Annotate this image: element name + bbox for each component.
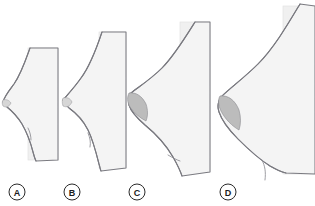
label-text-c: C (134, 188, 141, 198)
label-text-b: B (69, 188, 76, 198)
figure-group-d (218, 4, 315, 180)
breast-profile-diagram: A B C D (0, 0, 315, 206)
figure-group-c (128, 22, 210, 176)
label-d: D (220, 184, 236, 200)
label-a: A (9, 184, 25, 200)
label-text-a: A (14, 188, 21, 198)
diagram-canvas: A B C D (0, 0, 315, 206)
label-c: C (129, 184, 145, 200)
figure-group-b (62, 32, 126, 171)
figure-group-a (2, 48, 58, 161)
breast-contour-d (218, 4, 315, 174)
label-text-d: D (225, 188, 232, 198)
label-b: B (64, 184, 80, 200)
